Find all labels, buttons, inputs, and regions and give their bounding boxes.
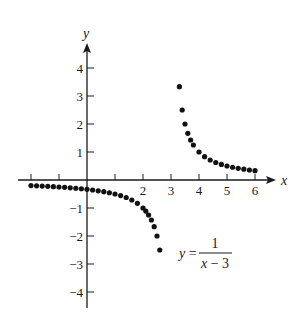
data-point [236,166,241,171]
x-axis-label: x [280,173,288,188]
y-tick-label: −2 [69,229,83,244]
y-tick-label: 2 [77,117,84,132]
data-point [62,185,67,190]
data-point [157,247,162,252]
x-tick-label: 4 [196,183,203,198]
data-point [84,187,89,192]
data-point [185,131,190,136]
data-point [34,183,39,188]
y-tick-label: −1 [69,201,83,216]
data-point [149,217,154,222]
data-point [51,184,56,189]
data-point [252,168,257,173]
data-point [196,149,201,154]
data-point [45,184,50,189]
axes [18,43,276,308]
data-point [177,84,182,89]
data-point [118,193,123,198]
data-point [56,184,61,189]
chart-plot: 234564321−1−2−3−4 x y y = 1 x − 3 [0,0,296,318]
equation-lhs: y = [177,246,197,261]
data-point [40,183,45,188]
data-point [124,195,129,200]
x-tick-label: 2 [140,183,147,198]
y-tick-label: 1 [77,145,84,160]
data-point [152,224,157,229]
equation-annotation: y = 1 x − 3 [177,236,232,271]
y-tick-label: −4 [69,285,83,300]
data-point [154,233,159,238]
data-point [224,163,229,168]
y-axis-label: y [81,26,90,41]
data-point [68,185,73,190]
x-tick-label: 6 [252,183,259,198]
data-points [28,84,257,253]
data-point [208,157,213,162]
data-point [202,154,207,159]
data-point [182,121,187,126]
x-tick-label: 3 [168,183,175,198]
data-point [219,162,224,167]
data-point [191,142,196,147]
y-tick-label: −3 [69,257,83,272]
data-point [180,107,185,112]
x-tick-label: 5 [224,183,231,198]
y-tick-label: 4 [77,61,84,76]
data-point [230,165,235,170]
data-point [96,188,101,193]
data-point [188,137,193,142]
data-point [247,167,252,172]
data-point [73,186,78,191]
data-point [112,191,117,196]
data-point [79,186,84,191]
data-point [241,167,246,172]
data-point [101,189,106,194]
equation-numerator: 1 [212,236,219,251]
data-point [28,183,33,188]
data-point [107,190,112,195]
y-tick-label: 3 [77,89,84,104]
data-point [90,187,95,192]
data-point [135,201,140,206]
equation-denominator: x − 3 [200,256,229,271]
data-point [213,160,218,165]
data-point [129,197,134,202]
data-point [146,212,151,217]
